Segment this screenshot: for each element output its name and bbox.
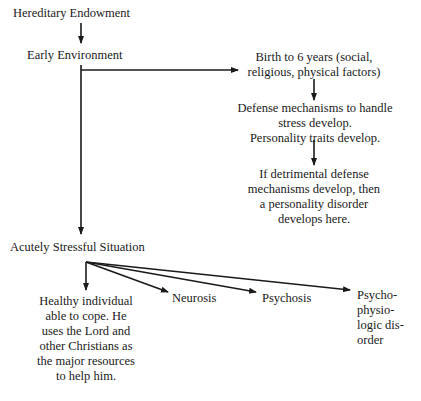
node-line: mechanisms develop, then (234, 182, 394, 197)
node-line: uses the Lord and (26, 324, 146, 339)
node-psychophysiologic-disorder: Psycho- physio- logic dis- order (357, 288, 404, 348)
node-defense-mechanisms: Defense mechanisms to handle stress deve… (222, 101, 408, 146)
node-line: Personality traits develop. (222, 131, 408, 146)
node-line: religious, physical factors) (238, 65, 390, 80)
node-line: stress develop. (222, 116, 408, 131)
node-neurosis: Neurosis (172, 291, 216, 306)
node-line: Defense mechanisms to handle (222, 101, 408, 116)
node-label: Acutely Stressful Situation (10, 240, 145, 254)
node-label: Early Environment (27, 48, 122, 62)
node-line: Birth to 6 years (social, (238, 50, 390, 65)
node-line: develops here. (234, 212, 394, 227)
node-line: logic dis- (357, 318, 404, 333)
node-healthy-individual: Healthy individual able to cope. He uses… (26, 294, 146, 384)
node-line: able to cope. He (26, 309, 146, 324)
node-acutely-stressful: Acutely Stressful Situation (10, 240, 145, 255)
node-line: other Christians as (26, 339, 146, 354)
node-label: Hereditary Endowment (13, 6, 130, 20)
node-detrimental-defense: If detrimental defense mechanisms develo… (234, 167, 394, 227)
node-hereditary-endowment: Hereditary Endowment (13, 6, 130, 21)
node-label: Psychosis (262, 291, 311, 305)
node-line: Healthy individual (26, 294, 146, 309)
node-line: a personality disorder (234, 197, 394, 212)
node-early-environment: Early Environment (27, 48, 122, 63)
node-line: to help him. (26, 369, 146, 384)
node-label: Neurosis (172, 291, 216, 305)
node-psychosis: Psychosis (262, 291, 311, 306)
node-line: the major resources (26, 354, 146, 369)
node-line: Psycho- (357, 288, 404, 303)
node-birth-to-six: Birth to 6 years (social, religious, phy… (238, 50, 390, 80)
node-line: If detrimental defense (234, 167, 394, 182)
node-line: physio- (357, 303, 404, 318)
node-line: order (357, 333, 404, 348)
